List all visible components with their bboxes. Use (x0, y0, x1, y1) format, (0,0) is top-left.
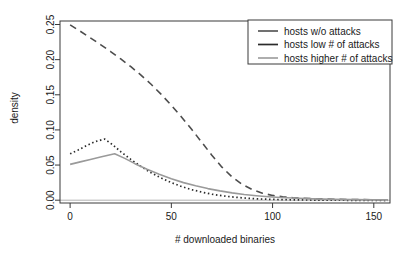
density-plot-figure: 050100150 0.000.050.100.150.200.25 # dow… (0, 0, 408, 257)
legend-label: hosts higher # of attacks (284, 53, 392, 64)
x-tick-label: 100 (264, 211, 281, 222)
x-tick-label: 50 (166, 211, 178, 222)
y-tick-label: 0.25 (46, 14, 57, 34)
y-tick-label: 0.15 (46, 85, 57, 105)
y-tick-label: 0.00 (46, 190, 57, 210)
y-tick-label: 0.10 (46, 120, 57, 140)
legend: hosts w/o attackshosts low # of attacksh… (248, 20, 392, 64)
y-axis-title: density (9, 92, 20, 124)
legend-label: hosts low # of attacks (284, 39, 380, 50)
plot-canvas: 050100150 0.000.050.100.150.200.25 # dow… (0, 0, 408, 257)
x-tick-label: 150 (365, 211, 382, 222)
legend-label: hosts w/o attacks (284, 26, 361, 37)
x-tick-label: 0 (67, 211, 73, 222)
x-axis-title: # downloaded binaries (175, 234, 275, 245)
y-tick-label: 0.05 (46, 155, 57, 175)
y-tick-label: 0.20 (46, 49, 57, 69)
